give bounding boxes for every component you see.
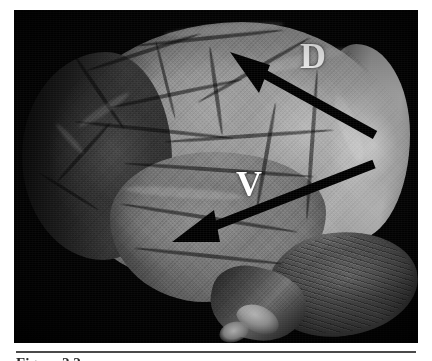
caption-divider-rule: [16, 351, 416, 353]
figure-caption: Figure 2.2: [16, 355, 416, 361]
ventral-arrow: [172, 164, 374, 242]
ventral-label: V: [236, 166, 262, 202]
brain-photograph: D V: [14, 10, 418, 343]
annotation-overlay: D V: [14, 10, 418, 343]
figure-root: D V Figure 2.2: [0, 0, 432, 361]
dorsal-label: D: [300, 38, 326, 74]
